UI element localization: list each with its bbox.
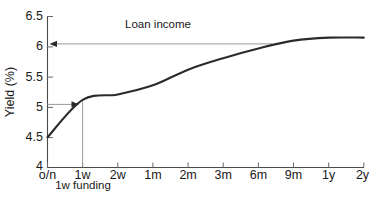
loan-income-arrow-head (50, 41, 58, 47)
y-label-6: 6 (36, 39, 43, 53)
yield-curve-line (48, 37, 364, 137)
x-label-9m: 9m (285, 168, 302, 182)
loan-income-label: Loan income (125, 18, 191, 30)
y-label-4_5: 4.5 (26, 130, 43, 144)
loan-income-annotation: Loan income (50, 18, 273, 47)
x-label-1m: 1m (144, 168, 161, 182)
x-label-6m: 6m (250, 168, 267, 182)
x-label-1y: 1y (322, 168, 336, 182)
y-axis-title: Yield (%) (3, 67, 17, 117)
x-label-on: o/n (39, 168, 56, 182)
x-label-3m: 3m (215, 168, 232, 182)
yield-curve-chart: 6.5 6 5.5 5 4.5 4 o/n 1w 2w 1m 2m 3m 6m … (0, 0, 381, 198)
y-tick-labels: 6.5 6 5.5 5 4.5 4 (26, 9, 43, 173)
x-label-2w: 2w (110, 168, 127, 182)
x-label-2m: 2m (179, 168, 196, 182)
x-label-2y: 2y (356, 168, 370, 182)
chart-canvas: 6.5 6 5.5 5 4.5 4 o/n 1w 2w 1m 2m 3m 6m … (0, 0, 381, 198)
y-label-6_5: 6.5 (26, 9, 43, 23)
y-label-5_5: 5.5 (26, 70, 43, 84)
y-label-5: 5 (36, 100, 43, 114)
funding-label: 1w funding (55, 179, 111, 191)
